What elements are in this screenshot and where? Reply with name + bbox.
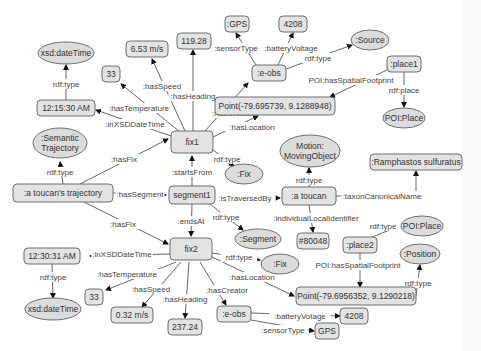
node-label: :a toucan	[292, 191, 327, 201]
node-eobs2[interactable]: :e-obs	[217, 306, 251, 322]
node-label: POI:Place	[403, 221, 442, 231]
edge-label: :hasSegment	[116, 190, 164, 199]
node-label: Point(-79.6956352, 9.1290218)	[297, 291, 415, 301]
node-poiplace1[interactable]: POI:Place	[383, 108, 425, 128]
node-label: fix1	[185, 137, 199, 147]
node-label: :a toucan's trajectory	[24, 188, 103, 198]
edge: rdf:type	[209, 150, 246, 166]
edge: :batteryVotage	[251, 311, 340, 321]
edge: :hasFix	[84, 202, 168, 244]
edge: :endsAt	[175, 204, 208, 236]
node-gps2[interactable]: GPS	[315, 323, 339, 339]
edge-label: rdf:type	[214, 155, 241, 164]
edge-label: rdf:type	[296, 176, 323, 185]
edge-label: :hasLocation	[229, 123, 274, 132]
node-label: :GPS	[227, 19, 248, 29]
node-label: :Segment	[240, 234, 277, 244]
node-time1[interactable]: 12:15:30 AM	[37, 100, 95, 116]
node-head2[interactable]: 237.24	[168, 319, 202, 335]
edge-label: rdf:type	[405, 279, 432, 288]
node-label: :e-obs	[257, 68, 281, 78]
edge: :inXSDDateTime	[96, 110, 171, 136]
edge-label: :hasHeading	[163, 295, 208, 304]
edge: :sensorType	[211, 33, 260, 65]
edge-label: :isTraversedBy	[218, 194, 271, 203]
node-gps1[interactable]: :GPS	[225, 16, 249, 32]
node-speed2[interactable]: 0.32 m/s	[111, 307, 153, 323]
node-semtraj[interactable]: :SemanticTrajectory	[33, 128, 87, 158]
node-position[interactable]: :Position	[400, 244, 440, 264]
edge: :hasSegment	[113, 189, 166, 199]
node-motion[interactable]: Motion:MovingObject	[280, 135, 340, 167]
node-temp2[interactable]: 33	[85, 289, 103, 305]
node-label: :SemanticTrajectory	[41, 133, 80, 153]
node-toucan[interactable]: :a toucan	[282, 187, 336, 205]
node-label: 12:15:30 AM	[42, 103, 90, 113]
node-label: segment1	[173, 190, 211, 200]
edge-label: :hasTemperature	[97, 270, 158, 279]
edge-label: :hasFix	[110, 220, 136, 229]
node-label: 0.32 m/s	[116, 310, 149, 320]
node-label: xsd:dateTime	[28, 304, 79, 314]
node-label: 237.24	[172, 322, 198, 332]
node-fixclass2[interactable]: :Fix	[261, 254, 299, 274]
edge-label: rdf:type	[53, 80, 80, 89]
edge-label: rdf:type	[213, 213, 240, 222]
edge: :inXSDDateTime	[90, 249, 170, 259]
edge-label: :hasCreator	[206, 286, 248, 295]
node-source[interactable]: :Source	[351, 30, 389, 50]
node-point2[interactable]: Point(-79.6956352, 9.1290218)	[296, 287, 416, 305]
node-batt2[interactable]: 4208	[340, 308, 368, 324]
node-speed1[interactable]: 6.53 m/s	[126, 41, 168, 57]
node-label: 119.28	[181, 36, 207, 46]
node-label: :place2	[346, 240, 374, 250]
edge-label: :batteryVotage	[274, 312, 326, 321]
node-point1[interactable]: Point(-79.695739, 9.1288948)	[215, 97, 335, 115]
node-fix2[interactable]: fix2	[170, 238, 212, 260]
edge-label: :startsFrom	[172, 168, 213, 177]
node-xsd2[interactable]: xsd:dateTime	[25, 298, 81, 320]
node-time2[interactable]: 12:30:31 AM	[24, 248, 80, 264]
edge: rdf:type	[365, 221, 402, 237]
edge-label: :batteryVoltage	[264, 44, 318, 53]
edge-label: :hasTemperature	[109, 104, 170, 113]
edge-label: :sensorType	[214, 44, 258, 53]
edge-label: :hasLocation	[229, 273, 274, 282]
node-label: Point(-79.695739, 9.1288948)	[219, 101, 332, 111]
node-eobs1[interactable]: :e-obs	[252, 65, 286, 81]
node-fixclass1[interactable]: :Fix	[225, 164, 263, 184]
node-label: :place1	[390, 59, 418, 69]
edge-label: rdf:type	[226, 253, 253, 262]
edge: rdf:type	[48, 65, 85, 100]
node-label: #80048	[299, 236, 328, 246]
edge-label: rdf:type	[40, 273, 67, 282]
node-fix1[interactable]: fix1	[171, 131, 213, 153]
edge: :hasFix	[80, 139, 168, 184]
node-temp1[interactable]: 33	[102, 66, 120, 82]
edge-label: :hasSpeed	[132, 285, 170, 294]
edge-label: rdf:type	[47, 168, 74, 177]
node-species[interactable]: :Ramphastos sulfuratus	[370, 154, 462, 170]
node-seg1[interactable]: segment1	[169, 186, 215, 204]
node-localid[interactable]: #80048	[297, 233, 329, 249]
rdf-graph-canvas: rdf:type:hasFix:hasSegment:hasFix:starts…	[0, 0, 481, 351]
node-poiplace2[interactable]: POI:Place	[401, 216, 443, 236]
edge: :taxonCanonicalName	[336, 171, 423, 201]
edge-label: POI:hasSpatialFootprint	[309, 76, 395, 85]
node-label: fix2	[184, 244, 198, 254]
node-head1[interactable]: 119.28	[177, 33, 211, 49]
node-traj[interactable]: :a toucan's trajectory	[13, 184, 113, 202]
node-place2[interactable]: :place2	[343, 237, 377, 253]
edge: POI:hasSpatialFootprint	[309, 253, 407, 287]
node-label: 33	[89, 292, 99, 302]
node-segclass[interactable]: :Segment	[235, 229, 281, 249]
node-label: :Ramphastos sulfuratus	[371, 157, 460, 167]
edge-label: :hasFix	[111, 155, 137, 164]
edge: rdf:type	[42, 162, 79, 184]
node-xsd1[interactable]: xsd:dateTime	[38, 42, 94, 64]
edge-label: :hasHeading	[171, 92, 216, 101]
node-place1[interactable]: :place1	[387, 56, 421, 72]
edge: :isTraversedBy	[214, 193, 280, 203]
node-label: 6.53 m/s	[131, 44, 164, 54]
node-batt1[interactable]: 4208	[279, 16, 307, 32]
